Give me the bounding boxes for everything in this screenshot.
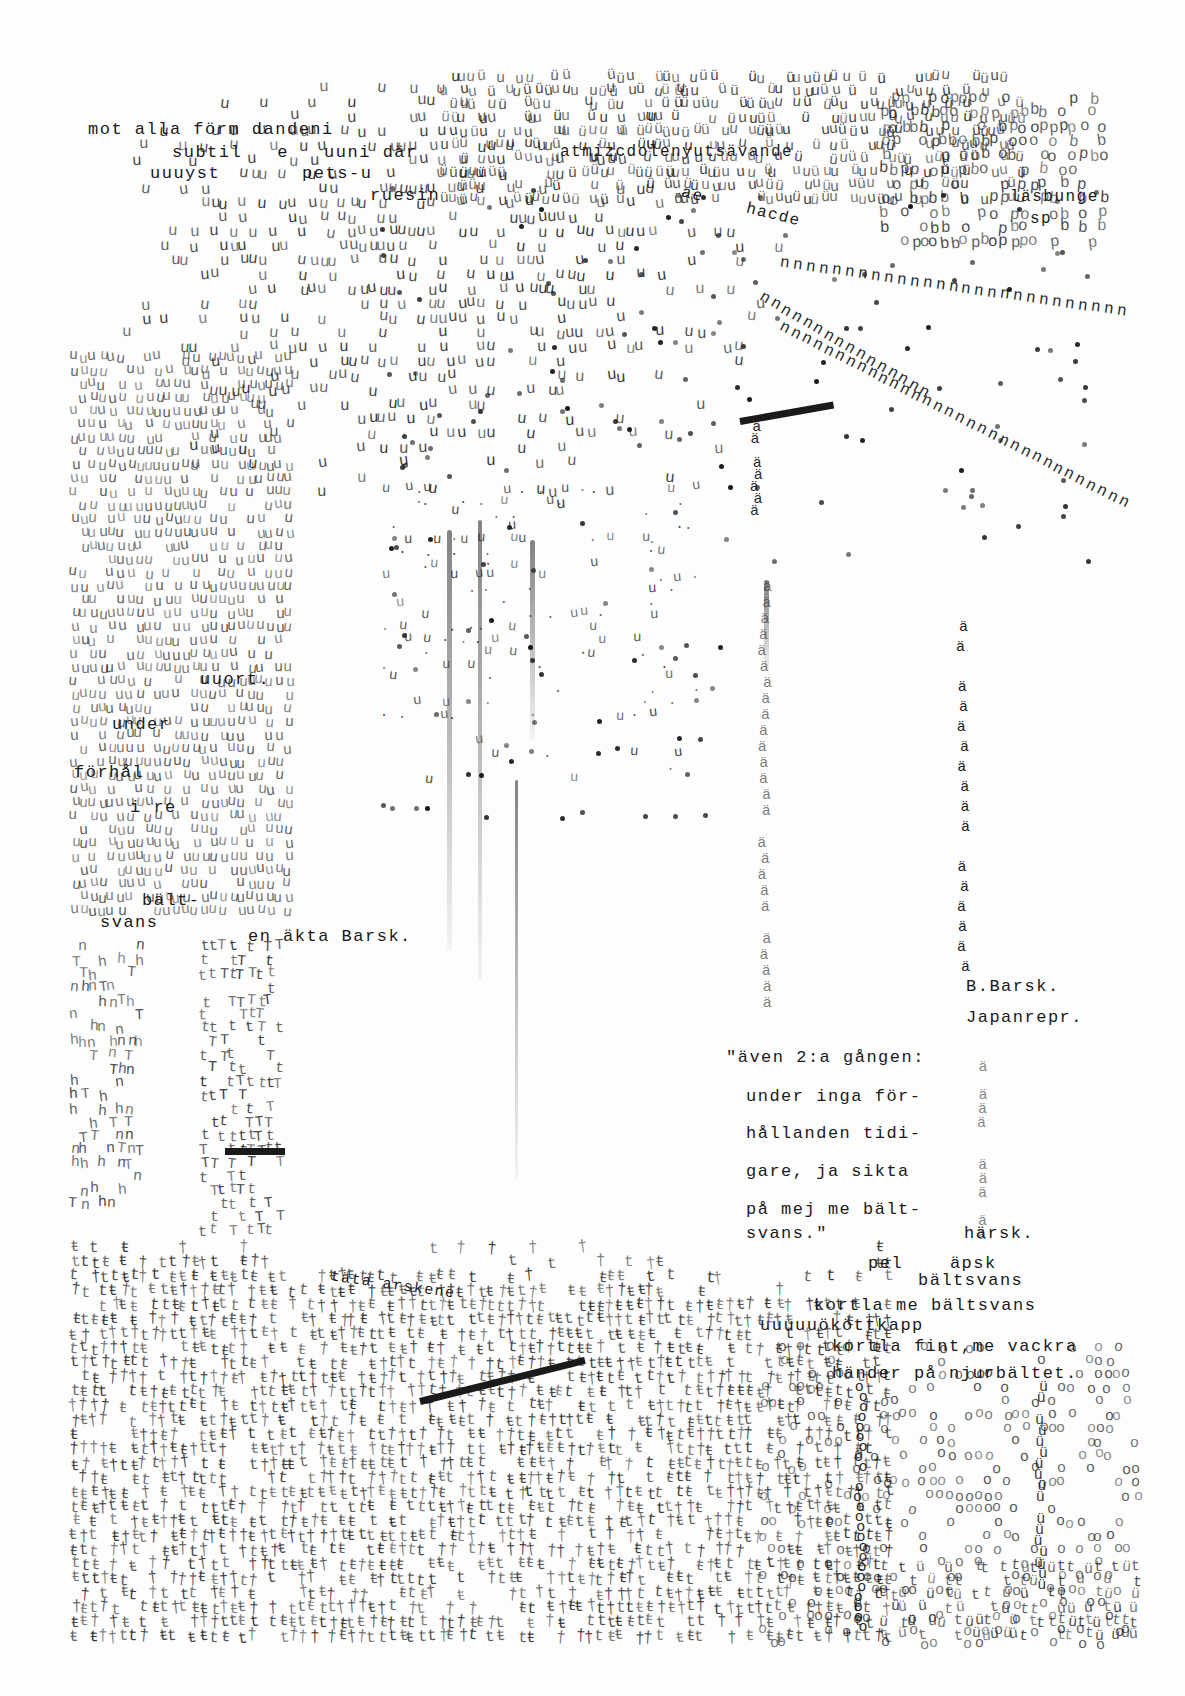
text-line-top-left-1: subtil e uuni där [172, 143, 418, 162]
text-harsk: härsk. [964, 1224, 1034, 1243]
quote-line-1: under inga för- [746, 1087, 922, 1106]
quote-line-3: gare, ja sikta [746, 1162, 910, 1181]
text-fragment-left-0: uuort. [200, 670, 270, 689]
signature-title: Japanrepr. [966, 1008, 1083, 1027]
text-fragment-left-4: bält- [142, 891, 201, 910]
text-fragment-left-3: i re [130, 798, 177, 817]
text-fragment-top-right-3: sp [1030, 210, 1052, 228]
text-line-top-left-2: uuuyst pets-u [150, 164, 372, 183]
text-line-top-left-0: mot alla förm dandeni [88, 120, 334, 139]
lower-right-line-4: kortla fint,me vackra [832, 1337, 1078, 1356]
lower-right-line-3: uuuuuököttkapp [760, 1316, 924, 1335]
text-fragment-left-2: förhål [74, 763, 144, 782]
text-fragment-top-right-2: läsbunge [1010, 188, 1099, 206]
quote-line-2: hållanden tidi- [746, 1124, 922, 1143]
lower-right-line-2: kortla me bältsvans [814, 1296, 1036, 1315]
text-en-akta-barsk: en äkta Barsk. [248, 927, 412, 946]
quote-line-0: "även 2:a gången: [726, 1048, 925, 1067]
text-fragment-left-1: under [112, 715, 171, 734]
quote-line-5: svans." [746, 1224, 828, 1243]
glyph-texture-layer: uuuuuuuuuuuuuuuuuuuuuuuuuuuuuuuuuuuuuuuu… [0, 0, 1185, 1696]
signature-name: B.Barsk. [966, 977, 1060, 996]
lower-right-line-5: händer på njurbältet. [832, 1364, 1078, 1383]
text-fragment-top-right-0: atmizcdolenyutsävande [560, 143, 793, 161]
text-fragment-left-5: svans [100, 913, 159, 932]
text-fragment-bottom-left: täta arskene [329, 1268, 456, 1302]
lower-right-line-1: bältsvans [918, 1271, 1023, 1290]
quote-line-4: på mej me bält- [746, 1200, 922, 1219]
poem-page: uuuuuuuuuuuuuuuuuuuuuuuuuuuuuuuuuuuuuuuu… [0, 0, 1185, 1696]
text-fragment-top-right-1: ae hacde [680, 183, 803, 230]
text-line-top-left-3: ruesin [370, 186, 440, 205]
